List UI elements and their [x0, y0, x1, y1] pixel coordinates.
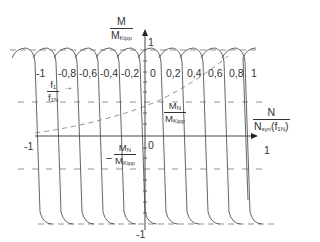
curve-label: 0,8: [229, 68, 244, 79]
x-tick-minus-1: -1: [24, 141, 33, 152]
x-axis-arrow-icon: [251, 133, 258, 139]
y-axis-label: M MKipp: [110, 16, 133, 41]
curve-label: -1: [36, 68, 45, 79]
curve-label: 0,2: [166, 68, 181, 79]
x-axis-label: N Nsyn(f1N): [253, 107, 290, 132]
y-tick-minus-1: -1: [136, 229, 145, 240]
y-axis-label-den: MKipp: [110, 28, 133, 41]
curve-label: 0,4: [187, 68, 202, 79]
frequency-ratio-label: f1 f1N: [47, 80, 59, 103]
y-tick-0: 0: [148, 140, 154, 151]
curve-label: -0,2: [121, 68, 139, 79]
curve-label: -0,6: [79, 68, 97, 79]
x-axis-label-num: N: [266, 107, 276, 119]
y-tick-1: 1: [148, 37, 154, 48]
x-tick-1: 1: [264, 145, 270, 156]
curve-label: 0: [150, 68, 156, 79]
curve-label: -0,8: [58, 68, 76, 79]
y-axis-label-num: M: [116, 16, 127, 28]
minus-sign: –: [106, 152, 112, 163]
arrow-right-icon: →: [63, 82, 73, 92]
y-axis-arrow-icon: [142, 29, 148, 36]
rated-torque-positive-label: MN MKipp: [164, 101, 186, 124]
rated-torque-negative-label: MN MKipp: [114, 143, 136, 166]
x-axis-label-den: Nsyn(f1N): [253, 119, 290, 132]
curve-label: 1: [251, 68, 257, 79]
curve-label: -0,4: [100, 68, 118, 79]
curve-label: 0,6: [208, 68, 223, 79]
